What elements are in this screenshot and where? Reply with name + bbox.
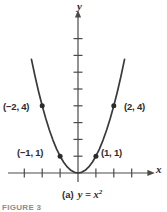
figure-number-label: FIGURE 3	[2, 203, 41, 212]
x-axis-label: x	[156, 163, 162, 175]
point-label-neg1-1: (−1, 1)	[17, 147, 43, 158]
figure-container: y x (−2, 4) (2, 4) (−1, 1) (1, 1) (a)y =…	[0, 0, 167, 212]
caption-part-label: (a)	[62, 189, 74, 200]
point-pos2-4	[111, 103, 116, 108]
point-pos1-1	[93, 154, 98, 159]
caption-equation: y = x2	[78, 189, 103, 200]
caption-equation-exponent: 2	[99, 187, 103, 195]
caption-equation-text: y = x	[78, 189, 99, 200]
figure-caption: (a)y = x2	[62, 187, 102, 200]
point-label-pos1-1: (1, 1)	[101, 147, 122, 158]
point-label-neg2-4: (−2, 4)	[3, 101, 29, 112]
point-neg1-1	[58, 154, 63, 159]
y-axis-label: y	[77, 0, 82, 12]
point-label-pos2-4: (2, 4)	[124, 101, 145, 112]
point-neg2-4	[40, 103, 45, 108]
